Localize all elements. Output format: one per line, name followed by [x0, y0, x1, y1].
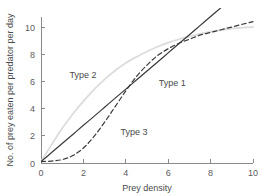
x-tick-label: 10: [248, 168, 258, 178]
axes: [41, 17, 253, 163]
series-label-type-1: Type 1: [159, 78, 186, 88]
x-tick-label: 4: [123, 168, 128, 178]
x-axis-ticks: 0246810: [38, 159, 258, 178]
x-tick-label: 0: [38, 168, 43, 178]
series-curve-type-1: [41, 0, 232, 162]
series-label-type-2: Type 2: [70, 70, 97, 80]
y-tick-label: 0: [30, 159, 35, 169]
series-annotations: Type 1Type 2Type 3: [70, 70, 186, 137]
functional-response-chart: 0246810 0246810 Type 1Type 2Type 3 Prey …: [0, 0, 271, 196]
x-axis-title: Prey density: [122, 183, 172, 193]
y-axis-title: No. of prey eaten per predator per day: [5, 13, 15, 167]
series-curve-type-2: [41, 27, 253, 162]
series-curve-type-3: [41, 22, 253, 162]
y-tick-label: 2: [30, 131, 35, 141]
data-series-curves: [41, 0, 253, 162]
x-tick-label: 8: [208, 168, 213, 178]
series-label-type-3: Type 3: [121, 127, 148, 137]
x-tick-label: 6: [166, 168, 171, 178]
y-tick-label: 4: [30, 104, 35, 114]
x-tick-label: 2: [81, 168, 86, 178]
y-axis-ticks: 0246810: [25, 23, 45, 169]
y-tick-label: 10: [25, 23, 35, 33]
y-tick-label: 8: [30, 50, 35, 60]
y-tick-label: 6: [30, 77, 35, 87]
chart-canvas: 0246810 0246810 Type 1Type 2Type 3 Prey …: [0, 0, 271, 196]
